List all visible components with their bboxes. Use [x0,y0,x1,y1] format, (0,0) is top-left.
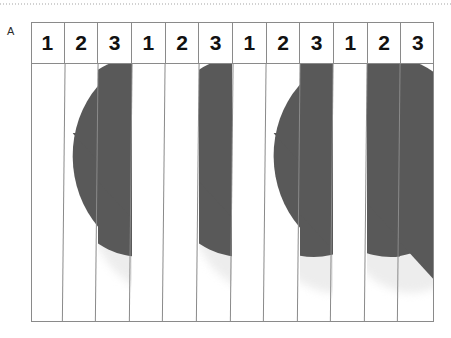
heart-picture-layer [31,63,65,322]
heart-picture-layer [65,63,99,322]
strip-3 [98,63,132,322]
dark-lobe-left [273,63,300,257]
strip-7 [233,63,267,322]
header-cell-9[interactable]: 3 [300,22,334,63]
header-cell-8[interactable]: 2 [267,22,301,63]
heart-picture-layer [367,63,401,322]
dotted-scan-line-icon [0,3,451,5]
header-cell-5[interactable]: 2 [166,22,200,63]
header-cell-10[interactable]: 1 [334,22,368,63]
strip-5 [165,63,199,322]
strip-11 [367,63,401,322]
stimulus-table: 123123123123 [31,22,434,322]
header-cell-12[interactable]: 3 [401,22,434,63]
panel-label: A [7,25,15,37]
header-cell-1[interactable]: 1 [31,22,65,63]
header-cell-4[interactable]: 1 [132,22,166,63]
dark-lobe-left [71,63,98,257]
header-cell-7[interactable]: 1 [233,22,267,63]
header-cell-6[interactable]: 3 [199,22,233,63]
strip-2 [65,63,99,322]
header-cell-2[interactable]: 2 [65,22,99,63]
heart-picture-layer [300,63,334,322]
strip-9 [300,63,334,322]
heart-picture-layer [400,63,434,322]
strip-1 [31,63,65,322]
strip-8 [266,63,300,322]
strip-4 [132,63,166,322]
heart-picture-layer [165,63,199,322]
heart-picture-layer [235,63,266,322]
strip-10 [333,63,367,322]
heart-picture-layer [333,63,367,322]
heart-picture-layer [98,63,132,322]
strip-6 [199,63,233,322]
header-divider [31,63,434,64]
heart-picture-layer [266,63,300,322]
heart-picture-layer [199,63,233,322]
strip-12 [400,63,434,322]
header-cell-3[interactable]: 3 [98,22,132,63]
figure-panel-a: A 123123123123 [0,0,451,338]
table-header-row: 123123123123 [31,22,434,63]
header-cell-11[interactable]: 2 [368,22,402,63]
